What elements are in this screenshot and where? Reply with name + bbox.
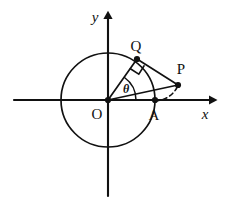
arrow-right-icon [209,95,218,104]
y-axis-label: y [90,9,99,25]
point-marker-o [105,97,111,103]
point-marker-p [175,82,181,88]
point-a-label: A [149,107,160,123]
point-marker-q [134,56,140,62]
arrow-up-icon [103,11,112,19]
segment-qp [137,59,178,85]
origin-label: O [92,106,103,122]
geometry-canvas: y x O A Q P θ [0,0,228,204]
geometry-figure: y x O A Q P θ [0,0,228,204]
x-axis-label: x [201,106,209,122]
angle-theta-label: θ [123,82,130,96]
point-p-label: P [177,61,185,77]
segments-group [108,59,178,100]
point-marker-a [152,97,158,103]
axes-group [14,11,218,196]
point-q-label: Q [131,38,142,54]
